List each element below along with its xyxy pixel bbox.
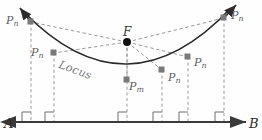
label-p-left-mid-sub: n (38, 51, 43, 60)
label-p-right-outer: Pn (231, 10, 244, 23)
focus-marker (123, 38, 131, 46)
right-angle-mark-1 (22, 112, 31, 121)
point-marker (221, 15, 227, 21)
right-angle-mark-5 (179, 112, 188, 121)
right-angle-mark-6 (215, 112, 224, 121)
focal-radius-4 (127, 42, 162, 70)
label-p-left-outer-sub: n (13, 19, 18, 28)
locus-parabola-diagram: Pn Pn Pm Pn Pn Pn F Locus A B (0, 0, 262, 140)
label-focus: F (123, 26, 131, 38)
label-p-vertex-sub: m (136, 85, 144, 94)
right-angle-mark-3 (118, 112, 127, 121)
focal-radius-2 (54, 42, 127, 53)
point-marker (28, 19, 34, 25)
label-p-left-mid: Pn (31, 47, 44, 60)
focal-radius-6 (127, 18, 224, 42)
label-axis-a: A (4, 117, 13, 130)
label-p-vertex: Pm (129, 81, 144, 94)
diagram-canvas (0, 0, 262, 140)
right-angle-mark-4 (153, 112, 162, 121)
label-p-right-mid-sub: n (201, 61, 206, 70)
label-p-right-outer-sub: n (238, 14, 243, 23)
point-marker (51, 50, 57, 56)
point-marker (185, 54, 191, 60)
label-p-right-inner-sub: n (175, 76, 180, 85)
right-angle-mark-group (22, 112, 224, 121)
point-marker (159, 67, 165, 73)
right-angle-mark-2 (45, 112, 54, 121)
label-p-left-outer: Pn (6, 15, 19, 28)
label-axis-b: B (249, 117, 259, 130)
label-p-right-mid: Pn (194, 57, 207, 70)
label-p-right-inner: Pn (168, 72, 181, 85)
